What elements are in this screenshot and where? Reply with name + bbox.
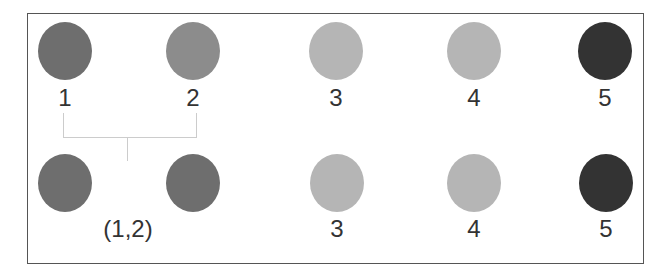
bottom-circle-2 xyxy=(166,154,220,212)
top-label-3: 3 xyxy=(329,86,342,110)
top-circle-2 xyxy=(166,22,220,80)
merge-bracket-stem xyxy=(127,137,128,161)
top-label-4: 4 xyxy=(467,86,480,110)
bottom-label-4: 4 xyxy=(467,217,480,241)
bottom-label-3: 3 xyxy=(330,217,343,241)
top-label-5: 5 xyxy=(598,86,611,110)
bottom-label-5: 5 xyxy=(599,217,612,241)
top-circle-4 xyxy=(447,22,501,80)
top-label-2: 2 xyxy=(186,86,199,110)
bottom-label-merged: (1,2) xyxy=(103,217,152,241)
merge-bracket xyxy=(63,113,197,138)
top-label-1: 1 xyxy=(58,86,71,110)
top-circle-3 xyxy=(309,22,363,80)
top-circle-5 xyxy=(578,22,632,80)
bottom-circle-1 xyxy=(38,154,92,212)
bottom-circle-3 xyxy=(310,154,364,212)
top-circle-1 xyxy=(38,22,92,80)
bottom-circle-4 xyxy=(447,154,501,212)
bottom-circle-5 xyxy=(579,154,633,212)
